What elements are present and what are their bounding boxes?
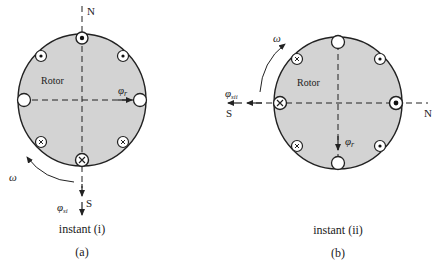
figure-b: φr N S φsii Rotor ω xyxy=(225,32,432,260)
figure-caption: (b) xyxy=(331,246,345,260)
conductor-top-empty xyxy=(332,36,345,49)
conductor-upper-right-dot xyxy=(375,54,386,65)
omega-label: ω xyxy=(9,171,17,183)
rotor-field-diagram: φr N S φsi Rotor ω xyxy=(0,0,434,269)
stator-flux-label: φsii xyxy=(225,87,238,101)
rotor-label: Rotor xyxy=(41,75,64,86)
north-label: N xyxy=(424,107,432,119)
conductor-bottom-cross xyxy=(76,154,89,167)
conductor-left-empty xyxy=(18,94,31,107)
conductor-lower-left-cross xyxy=(36,137,47,148)
conductor-lower-left-cross xyxy=(292,141,303,152)
conductor-upper-left-cross xyxy=(292,54,303,65)
conductor-upper-right-dot xyxy=(118,51,129,62)
conductor-right-dot xyxy=(390,97,403,110)
south-label: S xyxy=(86,197,92,209)
conductor-upper-left-dot xyxy=(36,51,47,62)
instant-label: instant (i) xyxy=(59,222,105,236)
figure-a: φr N S φsi Rotor ω xyxy=(9,5,147,259)
conductor-lower-right-dot xyxy=(375,141,386,152)
rotor-label: Rotor xyxy=(297,77,320,88)
conductor-lower-right-cross xyxy=(118,137,129,148)
stator-flux-label: φsi xyxy=(57,201,68,215)
north-label: N xyxy=(87,5,95,17)
conductor-bottom-empty xyxy=(332,157,345,170)
omega-label: ω xyxy=(273,32,281,44)
conductor-left-cross xyxy=(274,97,287,110)
conductor-top-dot xyxy=(76,32,88,44)
south-label: S xyxy=(226,107,232,119)
conductor-right-empty xyxy=(134,94,147,107)
figure-caption: (a) xyxy=(75,245,88,259)
instant-label: instant (ii) xyxy=(313,223,363,237)
